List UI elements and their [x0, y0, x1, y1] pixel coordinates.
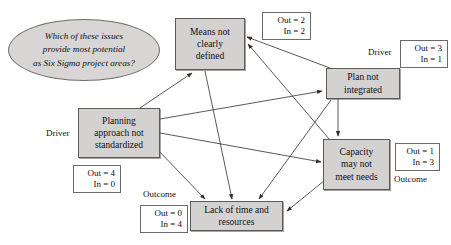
node-planning-line-3: standardized [94, 139, 143, 151]
node-means-line-1: Means not [190, 26, 230, 38]
interrelationship-digraph: Which of these issues provide most poten… [0, 0, 451, 245]
role-label-plan-driver: Driver [368, 47, 392, 57]
metric-planning: Out = 4 In = 0 [73, 165, 121, 193]
node-means-line-3: defined [190, 50, 230, 62]
question-bubble: Which of these issues provide most poten… [8, 19, 160, 81]
role-label-lack-outcome: Outcome [143, 189, 176, 199]
question-line-1: Which of these issues [33, 30, 135, 43]
arrow-means-to-lack [205, 71, 232, 199]
metric-plan-out: Out = 3 [414, 43, 442, 54]
metric-means: Out = 2 In = 2 [262, 12, 311, 40]
metric-lack: Out = 0 In = 4 [140, 205, 188, 233]
metric-plan: Out = 3 In = 1 [400, 40, 448, 68]
role-label-capacity-outcome: Outcome [394, 174, 427, 184]
node-lack-line-1: Lack of time and [204, 204, 269, 216]
question-line-2: provide most potential [33, 43, 135, 56]
node-plan-line-2: integrated [344, 84, 382, 96]
node-plan-not-integrated[interactable]: Plan not integrated [326, 68, 400, 99]
node-plan-line-1: Plan not [344, 71, 382, 83]
arrow-planning-to-plan [160, 91, 322, 119]
metric-capacity: Out = 1 In = 3 [395, 143, 440, 171]
metric-planning-out: Out = 4 [87, 168, 115, 179]
metric-lack-out: Out = 0 [154, 208, 182, 219]
node-planning-line-1: Planning [94, 115, 143, 127]
node-means-not-clearly-defined[interactable]: Means not clearly defined [175, 18, 245, 70]
node-means-line-2: clearly [190, 38, 230, 50]
metric-capacity-in: In = 3 [412, 157, 434, 168]
node-lack-line-2: resources [204, 216, 269, 228]
node-capacity-line-3: meet needs [335, 171, 377, 183]
metric-planning-in: In = 0 [93, 179, 115, 190]
node-planning-approach-not-standardized[interactable]: Planning approach not standardized [78, 108, 160, 158]
metric-lack-in: In = 4 [160, 219, 182, 230]
role-label-planning-driver: Driver [46, 128, 70, 138]
metric-capacity-out: Out = 1 [406, 146, 434, 157]
metric-means-out: Out = 2 [277, 15, 305, 26]
metric-means-in: In = 2 [283, 26, 305, 37]
question-line-3: as Six Sigma project areas? [33, 57, 135, 70]
arrow-plan-to-means [247, 37, 330, 68]
metric-plan-in: In = 1 [420, 54, 442, 65]
node-capacity-line-2: may not [335, 158, 377, 170]
node-capacity-may-not-meet-needs[interactable]: Capacity may not meet needs [323, 139, 390, 190]
arrow-capacity-to-lack [287, 180, 325, 211]
node-planning-line-2: approach not [94, 127, 143, 139]
node-capacity-line-1: Capacity [335, 146, 377, 158]
node-lack-of-time-and-resources[interactable]: Lack of time and resources [190, 201, 283, 231]
arrow-planning-to-means [140, 73, 192, 108]
